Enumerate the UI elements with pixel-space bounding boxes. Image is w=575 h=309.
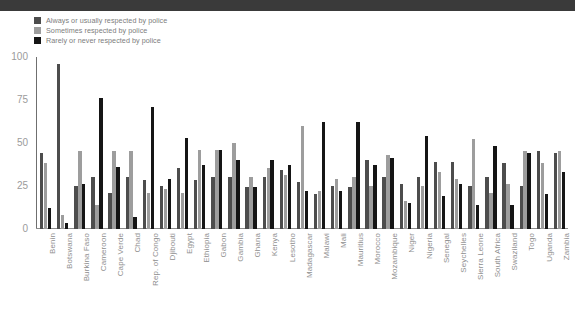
bar	[270, 160, 273, 229]
x-axis-tick-label: Gambia	[237, 233, 245, 262]
bar-group	[160, 57, 171, 229]
bar	[331, 186, 334, 229]
bar	[472, 139, 475, 228]
x-axis-tick-label: Seychelles	[460, 233, 468, 273]
bar	[382, 177, 385, 228]
x-axis-tick-label: Senegal	[443, 233, 451, 263]
x-axis-tick-label: Lesotho	[289, 233, 297, 262]
x-axis-tick-label: Cape Verde	[117, 233, 125, 276]
bar-group	[365, 57, 376, 229]
bar	[164, 189, 167, 228]
x-axis-tick-label: Botswana	[66, 233, 74, 269]
bar	[489, 193, 492, 229]
bar	[126, 177, 129, 228]
bar	[194, 180, 197, 228]
bar	[57, 64, 60, 229]
bar	[421, 186, 424, 229]
bar	[219, 150, 222, 229]
y-axis-tick-0: 0	[22, 224, 28, 234]
x-axis-tick-label: Nigeria	[426, 233, 434, 259]
bar	[297, 182, 300, 228]
bar	[365, 160, 368, 229]
x-axis-tick-label: Malawi	[323, 233, 331, 259]
bar	[82, 184, 85, 229]
x-axis-tick-label: Mali	[340, 233, 348, 248]
bar	[404, 201, 407, 228]
bar	[442, 196, 445, 229]
bar	[232, 143, 235, 229]
bar	[280, 170, 283, 228]
bar-group	[468, 57, 479, 229]
bar	[305, 191, 308, 229]
bar	[112, 151, 115, 228]
x-axis-tick-label: Mozambique	[391, 233, 399, 280]
bar-group	[211, 57, 222, 229]
bar	[215, 150, 218, 229]
x-axis-tick-label: Rep. of Congo	[152, 233, 160, 286]
x-axis-tick-label: Madagascar	[306, 233, 314, 278]
bar	[44, 163, 47, 228]
bar-group	[108, 57, 119, 229]
bar	[386, 155, 389, 229]
bar	[181, 193, 184, 229]
bar-group	[194, 57, 205, 229]
x-axis-tick-label: Cameroon	[100, 233, 108, 271]
bar	[177, 168, 180, 228]
bar-group	[143, 57, 154, 229]
bar	[168, 179, 171, 229]
x-axis-tick-label: Togo	[528, 233, 536, 251]
bar	[562, 172, 565, 229]
bar-group	[57, 57, 68, 229]
bar	[485, 177, 488, 228]
x-axis-tick-label: Egypt	[186, 233, 194, 254]
bar	[202, 165, 205, 228]
bar-group	[40, 57, 51, 229]
bar	[236, 160, 239, 229]
bar	[301, 126, 304, 229]
x-axis-tick-label: Chad	[134, 233, 142, 253]
x-axis-tick-label: Uganda	[546, 233, 554, 262]
bar	[147, 193, 150, 229]
bar	[434, 162, 437, 229]
bar	[185, 138, 188, 229]
bar	[523, 151, 526, 228]
bar-group	[297, 57, 308, 229]
bar	[99, 98, 102, 228]
bar	[356, 122, 359, 228]
bar	[400, 184, 403, 229]
bar	[545, 194, 548, 228]
bar	[151, 107, 154, 229]
bar	[476, 205, 479, 229]
bar	[348, 187, 351, 228]
bar	[425, 136, 428, 229]
bar-group	[382, 57, 393, 229]
bar	[502, 163, 505, 228]
bar	[48, 208, 51, 229]
bar-group	[263, 57, 274, 229]
x-axis-tick-label: Niger	[408, 233, 416, 253]
bar	[267, 168, 270, 228]
y-axis-tick-50: 50	[17, 138, 28, 148]
bar-group	[280, 57, 291, 229]
bar-groups-container	[37, 57, 568, 229]
bar	[198, 150, 201, 229]
bar-group	[417, 57, 428, 229]
bar-group	[554, 57, 565, 229]
x-axis-tick-labels: BeninBotswanaBurkina FasoCameroonCape Ve…	[37, 231, 568, 309]
x-axis-tick-label: Djibouti	[169, 233, 177, 260]
bar	[506, 184, 509, 229]
bar-group	[177, 57, 188, 229]
bar	[133, 217, 136, 229]
bar-group	[520, 57, 531, 229]
bar	[318, 191, 321, 229]
bar	[510, 205, 513, 229]
bar-group	[126, 57, 137, 229]
bar	[369, 186, 372, 229]
bar-group	[400, 57, 411, 229]
bar-group	[314, 57, 325, 229]
bar	[438, 172, 441, 229]
x-axis-tick-label: South Africa	[494, 233, 502, 277]
bar	[339, 191, 342, 229]
bar	[520, 186, 523, 229]
bar	[352, 177, 355, 228]
